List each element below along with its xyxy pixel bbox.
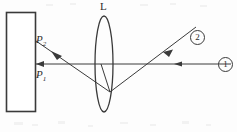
point-p1-subscript: 1 [43,75,47,83]
ray-one-number-badge: 1 [218,57,233,72]
lens-lower-stub [101,64,110,92]
ray-two-arrowhead-reflected [51,51,62,60]
point-p2-subscript: 2 [43,40,47,48]
optics-figure: L P2 P1 2 1 [0,0,237,132]
ray-one-arrowhead-left [36,61,44,67]
point-p1-base: P [36,68,43,80]
ray-diagram-canvas [0,0,237,132]
ray-two-reflected-line [36,41,110,92]
ray-two-number-badge: 2 [190,30,205,45]
screen-mirror [7,13,36,112]
point-p1-label: P1 [36,69,46,83]
point-p2-label: P2 [36,34,46,48]
ray-two-incoming-line [110,27,196,92]
point-p2-base: P [36,33,43,45]
ray-one-arrowhead-mid [174,61,182,66]
lens-label: L [100,1,107,12]
